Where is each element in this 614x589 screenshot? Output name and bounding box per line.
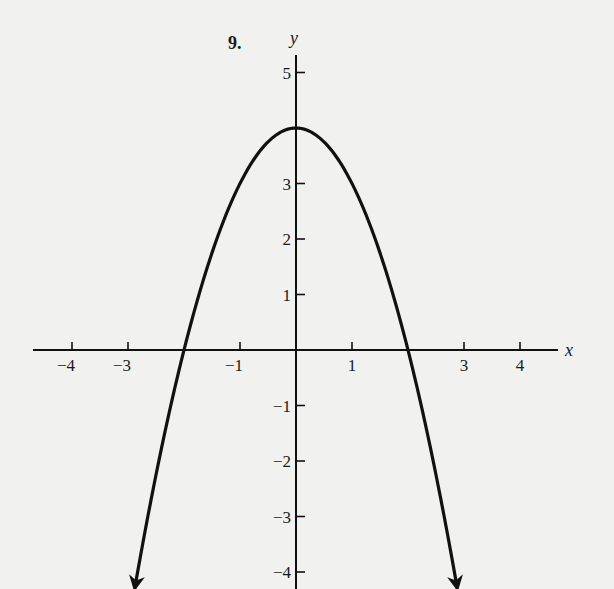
x-tick-label: −4 (57, 356, 76, 375)
x-ticks: −4−3−1134 (57, 342, 525, 375)
problem-number: 9. (228, 33, 242, 53)
parabola-graph: 9. x y −4−3−1134 5321−1−2−3−4 (0, 0, 614, 589)
y-tick-label: 1 (283, 286, 292, 305)
x-tick-label: 4 (516, 356, 525, 375)
axes: x y (33, 28, 573, 589)
y-axis-label: y (288, 28, 298, 48)
x-axis-label: x (564, 340, 573, 360)
y-tick-label: −4 (273, 563, 292, 582)
y-tick-label: −2 (273, 452, 291, 471)
x-tick-label: 1 (348, 356, 357, 375)
y-ticks: 5321−1−2−3−4 (273, 64, 305, 583)
x-tick-label: 3 (460, 356, 469, 375)
x-tick-label: −1 (225, 356, 243, 375)
x-tick-label: −3 (113, 356, 131, 375)
y-tick-label: 2 (283, 230, 292, 249)
y-tick-label: 3 (283, 175, 292, 194)
y-tick-label: −1 (273, 397, 291, 416)
y-tick-label: −3 (273, 508, 291, 527)
y-tick-label: 5 (283, 64, 292, 83)
